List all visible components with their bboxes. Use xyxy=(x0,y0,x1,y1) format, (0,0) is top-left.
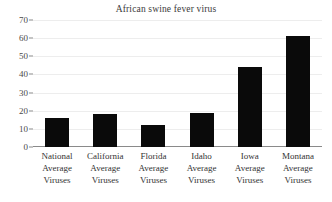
x-tick-label: NationalAverageViruses xyxy=(33,150,81,187)
x-tick-label-line: Viruses xyxy=(33,174,81,186)
x-tick-label-line: Average xyxy=(274,162,322,174)
bar[interactable] xyxy=(93,114,117,147)
x-tick-label: IowaAverageViruses xyxy=(226,150,274,187)
x-tick-label-line: Montana xyxy=(274,150,322,162)
bar[interactable] xyxy=(141,125,165,147)
x-tick-label-line: Florida xyxy=(129,150,177,162)
x-tick-label-line: Viruses xyxy=(178,174,226,186)
x-tick-label-line: Average xyxy=(226,162,274,174)
bar[interactable] xyxy=(238,67,262,147)
x-tick-label: CaliforniaAverageViruses xyxy=(81,150,129,187)
x-tick-label: IdahoAverageViruses xyxy=(178,150,226,187)
bar[interactable] xyxy=(286,36,310,147)
chart-title: African swine fever virus xyxy=(0,4,332,14)
bar[interactable] xyxy=(45,118,69,147)
x-tick-label-line: Viruses xyxy=(81,174,129,186)
y-tick-label: 20 xyxy=(19,106,28,115)
plot-area xyxy=(33,20,322,147)
bar-slot xyxy=(81,20,129,147)
bar-slot xyxy=(274,20,322,147)
x-tick-label-line: Iowa xyxy=(226,150,274,162)
y-axis: 010203040506070 xyxy=(0,20,33,147)
x-tick-label-line: California xyxy=(81,150,129,162)
x-tick-label-line: Average xyxy=(33,162,81,174)
y-tick-label: 60 xyxy=(19,34,28,43)
x-tick-label: FloridaAverageViruses xyxy=(129,150,177,187)
x-tick-label-line: Idaho xyxy=(178,150,226,162)
bar-slot xyxy=(33,20,81,147)
y-tick-label: 0 xyxy=(24,143,29,152)
bar[interactable] xyxy=(190,113,214,147)
x-tick-label-line: Viruses xyxy=(226,174,274,186)
x-tick-label-line: Viruses xyxy=(274,174,322,186)
x-tick-label-line: Average xyxy=(81,162,129,174)
y-tick-label: 30 xyxy=(19,88,28,97)
x-axis-labels: NationalAverageVirusesCaliforniaAverageV… xyxy=(33,150,322,200)
y-tick-label: 70 xyxy=(19,16,28,25)
x-tick-label-line: Viruses xyxy=(129,174,177,186)
x-tick-label-line: National xyxy=(33,150,81,162)
y-tick-label: 40 xyxy=(19,70,28,79)
x-tick-label-line: Average xyxy=(129,162,177,174)
x-tick-label-line: Average xyxy=(178,162,226,174)
y-tick-label: 50 xyxy=(19,52,28,61)
x-tick-label: MontanaAverageViruses xyxy=(274,150,322,187)
y-tick-label: 10 xyxy=(19,124,28,133)
bar-slot xyxy=(178,20,226,147)
bar-slot xyxy=(226,20,274,147)
bar-slot xyxy=(129,20,177,147)
bar-chart-figure: African swine fever virus 01020304050607… xyxy=(0,0,332,202)
